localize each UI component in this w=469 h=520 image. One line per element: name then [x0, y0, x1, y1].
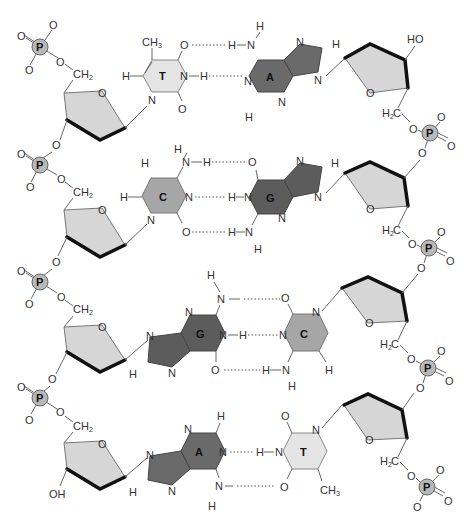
- ch2-label: CH: [73, 186, 89, 198]
- oxygen-label: O: [417, 262, 426, 274]
- nitrogen-label: N: [219, 446, 227, 458]
- nitrogen-label: N: [185, 306, 193, 318]
- ring-oxygen-label: O: [365, 317, 374, 329]
- hydrogen-label: H: [174, 143, 182, 155]
- hydrogen-label: H: [262, 364, 270, 376]
- hydrogen-label: H: [200, 70, 208, 82]
- right-sugar-3: O H 2 C O: [342, 274, 422, 365]
- oxygen-label: O: [408, 238, 417, 250]
- hydrogen-label: H: [331, 157, 339, 169]
- nitrogen-label: N: [275, 446, 283, 458]
- right-phosphate-2: P O O O: [417, 226, 455, 274]
- oxygen-label: O: [407, 470, 416, 482]
- oxygen-label: O: [281, 410, 290, 422]
- nitrogen-label: N: [279, 329, 287, 341]
- left-phosphate-2: O P O O O CH 2: [17, 139, 93, 210]
- dna-base-pairing-diagram: P O O O O CH 2 O O P O O: [0, 0, 469, 520]
- oxygen-label: O: [25, 414, 34, 426]
- h2c-label: H: [380, 455, 388, 467]
- oxygen-label: O: [57, 173, 66, 185]
- ring-oxygen-label: O: [98, 87, 107, 99]
- ch2-label: CH: [73, 68, 89, 80]
- hydrogen-label: H: [217, 410, 225, 422]
- nitrogen-label: N: [219, 329, 227, 341]
- left-sugar-2: O: [58, 204, 147, 257]
- h2c-label: C: [393, 107, 401, 119]
- nitrogen-label: N: [184, 423, 192, 435]
- oxygen-label: O: [248, 156, 257, 168]
- base-letter: T: [300, 446, 307, 458]
- phosphate-label: P: [36, 276, 43, 288]
- hydrogen-label: H: [325, 364, 333, 376]
- subscript: 2: [89, 426, 93, 433]
- ring-oxygen-label: O: [98, 438, 107, 450]
- nitrogen-label: N: [217, 293, 225, 305]
- right-phosphate-1: P O O O: [418, 111, 456, 159]
- hydrogen-label: H: [203, 156, 211, 168]
- thymine-4: T O N H N O CH 3: [256, 405, 342, 497]
- oxygen-label: O: [444, 495, 453, 507]
- nitrogen-label: N: [244, 191, 252, 203]
- oxygen-label: O: [445, 375, 454, 387]
- left-phosphate-1: P O O O O CH 2: [17, 19, 93, 93]
- h2c-label: H: [380, 338, 388, 350]
- oxygen-label: O: [52, 139, 61, 151]
- phosphate-label: P: [424, 362, 431, 374]
- cytosine-2: C H H N H H N N O: [120, 143, 211, 238]
- base-letter: G: [266, 192, 275, 204]
- thymine-1: T CH 3 O N H H N O: [122, 36, 208, 115]
- ch3-label: CH: [142, 36, 158, 48]
- nitrogen-label: N: [312, 306, 320, 318]
- base-letter: C: [300, 328, 308, 340]
- hydrogen-label: H: [332, 38, 340, 50]
- base-letter: T: [159, 70, 166, 82]
- ho-terminus-label: HO: [407, 33, 424, 45]
- oxygen-label: O: [17, 148, 26, 160]
- base-letter: C: [159, 191, 167, 203]
- oxygen-label: O: [180, 39, 189, 51]
- oxygen-label: O: [25, 298, 34, 310]
- ring-oxygen-label: O: [98, 321, 107, 333]
- oxygen-label: O: [280, 481, 289, 493]
- nitrogen-label: N: [146, 330, 154, 342]
- guanine-2: G O H N N H N H N H N: [228, 155, 345, 255]
- oxygen-label: O: [25, 64, 34, 76]
- ring-oxygen-label: O: [366, 87, 375, 99]
- subscript: 2: [89, 192, 93, 199]
- subscript: 2: [89, 309, 93, 316]
- hydrogen-label: H: [228, 39, 236, 51]
- ring-oxygen-label: O: [366, 203, 375, 215]
- base-letter: A: [195, 446, 203, 458]
- left-backbone: P O O O O CH 2 O O P O O: [17, 19, 148, 500]
- hydrogen-label: H: [122, 70, 130, 82]
- hydrogen-label: H: [120, 191, 128, 203]
- phosphate-label: P: [36, 392, 43, 404]
- oxygen-label: O: [182, 226, 191, 238]
- phosphate-label: P: [36, 159, 43, 171]
- nitrogen-label: N: [148, 94, 156, 106]
- oxygen-label: O: [48, 373, 57, 385]
- nitrogen-label: N: [244, 75, 252, 87]
- h2c-label: H: [382, 224, 390, 236]
- nitrogen-label: N: [314, 191, 322, 203]
- base-pair-2: C H H N H H N N O G O H N N: [120, 143, 345, 255]
- right-phosphate-4: P O O O: [413, 464, 453, 513]
- nitrogen-label: N: [314, 74, 322, 86]
- guanine-3: G N N H N N H N H O: [129, 269, 247, 380]
- nitrogen-label: N: [278, 212, 286, 224]
- oxygen-label: O: [178, 103, 187, 115]
- hydrogen-label: H: [208, 500, 216, 512]
- oh-terminus-label: OH: [49, 488, 66, 500]
- hydrogen-label: H: [239, 329, 247, 341]
- hydrogen-label: H: [245, 111, 253, 123]
- hydrogen-label: H: [129, 368, 137, 380]
- nitrogen-label: N: [312, 424, 320, 436]
- ch3-label: CH: [320, 484, 336, 496]
- nitrogen-label: N: [147, 214, 155, 226]
- oxygen-label: O: [437, 226, 446, 238]
- oxygen-label: O: [17, 265, 26, 277]
- hydrogen-label: H: [141, 157, 149, 169]
- oxygen-label: O: [17, 381, 26, 393]
- h2c-label: H: [382, 107, 390, 119]
- nitrogen-label: N: [146, 449, 154, 461]
